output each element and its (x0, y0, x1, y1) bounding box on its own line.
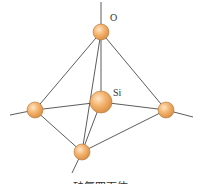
figure-caption: 硅氧四面体 (0, 178, 200, 184)
silicon-atom-center (90, 91, 112, 113)
silicon-label: Si (113, 88, 121, 98)
edge-right-bottom (82, 110, 166, 152)
oxygen-atom-top (93, 24, 109, 40)
edge-left-bottom (35, 110, 82, 152)
oxygen-atom-right (158, 102, 174, 118)
oxygen-atom-bottom (74, 144, 90, 160)
oxygen-atom-left (27, 102, 43, 118)
atoms (27, 24, 174, 160)
tetrahedron-diagram (0, 0, 200, 184)
oxygen-label: O (110, 13, 117, 23)
